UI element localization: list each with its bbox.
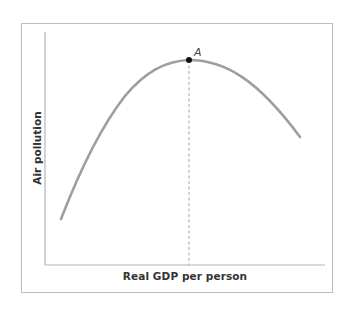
chart-plot [0,0,351,311]
y-axis-label: Air pollution [31,111,43,184]
kuznets-curve [61,60,300,219]
x-axis-label: Real GDP per person [110,270,260,282]
point-a-marker [186,57,192,63]
point-a-label: A [194,46,202,59]
